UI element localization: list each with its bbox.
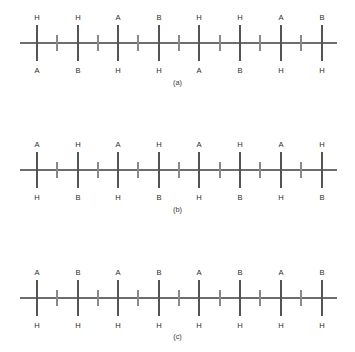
top-substituent-label: A	[115, 13, 121, 22]
top-substituent-label: B	[75, 268, 80, 277]
panel-caption-b: (b)	[0, 205, 355, 214]
bottom-substituent-label: B	[237, 193, 242, 202]
bottom-substituent-label: H	[115, 321, 120, 330]
bottom-substituent-label: H	[115, 66, 120, 75]
bottom-substituent-label: H	[278, 193, 283, 202]
top-substituent-label: H	[196, 13, 201, 22]
bottom-substituent-label: H	[196, 193, 201, 202]
bottom-substituent-label: A	[196, 66, 202, 75]
chain-panel-a: HAHBAHBHHAHBAHBH	[0, 10, 355, 85]
top-substituent-label: H	[237, 13, 242, 22]
panel-caption-c: (c)	[0, 332, 355, 341]
top-substituent-label: A	[278, 140, 284, 149]
top-substituent-label: H	[75, 140, 80, 149]
bottom-substituent-label: H	[319, 66, 324, 75]
copolymer-figure: HAHBAHBHHAHBAHBH(a)AHHBAHHBAHHBAHHB(b)AH…	[0, 0, 355, 352]
bottom-substituent-label: A	[34, 66, 40, 75]
top-substituent-label: A	[34, 268, 40, 277]
bottom-substituent-label: H	[196, 321, 201, 330]
bottom-substituent-label: H	[156, 321, 161, 330]
top-substituent-label: A	[196, 140, 202, 149]
top-substituent-label: B	[319, 13, 324, 22]
top-substituent-label: H	[34, 13, 39, 22]
top-substituent-label: B	[319, 268, 324, 277]
chain-diagram-c: AHBHAHBHAHBHAHBH	[0, 265, 355, 340]
bottom-substituent-label: B	[75, 193, 80, 202]
bottom-substituent-label: B	[75, 66, 80, 75]
panel-caption-a: (a)	[0, 78, 355, 87]
bottom-substituent-label: B	[319, 193, 324, 202]
bottom-substituent-label: H	[278, 66, 283, 75]
top-substituent-label: H	[75, 13, 80, 22]
top-substituent-label: A	[34, 140, 40, 149]
top-substituent-label: H	[319, 140, 324, 149]
chain-panel-b: AHHBAHHBAHHBAHHB	[0, 137, 355, 212]
top-substituent-label: A	[278, 13, 284, 22]
top-substituent-label: A	[278, 268, 284, 277]
top-substituent-label: H	[156, 140, 161, 149]
top-substituent-label: A	[196, 268, 202, 277]
bottom-substituent-label: B	[237, 66, 242, 75]
chain-diagram-b: AHHBAHHBAHHBAHHB	[0, 137, 355, 212]
bottom-substituent-label: H	[237, 321, 242, 330]
top-substituent-label: B	[156, 268, 161, 277]
bottom-substituent-label: H	[278, 321, 283, 330]
top-substituent-label: B	[156, 13, 161, 22]
top-substituent-label: B	[237, 268, 242, 277]
bottom-substituent-label: H	[75, 321, 80, 330]
bottom-substituent-label: H	[156, 66, 161, 75]
top-substituent-label: A	[115, 268, 121, 277]
bottom-substituent-label: H	[34, 321, 39, 330]
bottom-substituent-label: H	[319, 321, 324, 330]
chain-panel-c: AHBHAHBHAHBHAHBH	[0, 265, 355, 340]
top-substituent-label: H	[237, 140, 242, 149]
bottom-substituent-label: H	[34, 193, 39, 202]
bottom-substituent-label: B	[156, 193, 161, 202]
bottom-substituent-label: H	[115, 193, 120, 202]
top-substituent-label: A	[115, 140, 121, 149]
chain-diagram-a: HAHBAHBHHAHBAHBH	[0, 10, 355, 85]
